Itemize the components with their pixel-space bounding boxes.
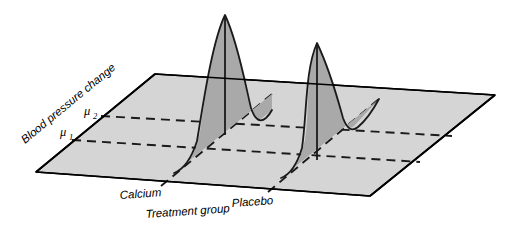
mu1-subscript: 1	[69, 132, 73, 142]
mu2-subscript: 2	[93, 111, 98, 121]
mu2-tick-label: μ 2	[83, 104, 98, 121]
calcium-group-label: Calcium	[119, 186, 162, 201]
placebo-group-label: Placebo	[231, 194, 274, 209]
mu2-symbol: μ	[83, 104, 90, 118]
horizontal-axis-label: Treatment group	[145, 202, 230, 220]
distribution-plane-figure: Blood pressure change μ 2 μ 1 Calcium Pl…	[0, 0, 516, 225]
mu1-tick-label: μ 1	[59, 125, 73, 142]
figure-container: Blood pressure change μ 2 μ 1 Calcium Pl…	[0, 0, 516, 225]
mu1-symbol: μ	[59, 125, 66, 139]
